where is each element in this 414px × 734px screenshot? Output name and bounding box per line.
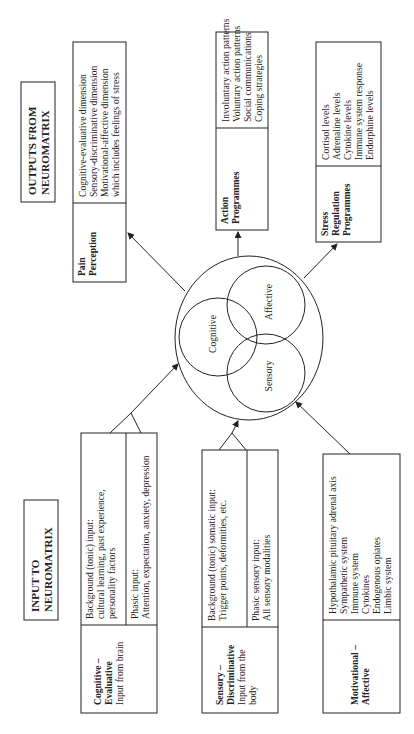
motivational-affective-box: Motivational – Affective Hypothalamic pi… bbox=[323, 454, 400, 713]
action-item: Social communications bbox=[242, 32, 253, 122]
affective-label: Affective bbox=[263, 284, 274, 320]
pain-item: Motivational-affective dimension bbox=[99, 68, 110, 197]
cognitive-connector bbox=[110, 413, 141, 433]
motivational-item: Limbic system bbox=[382, 557, 393, 614]
inputs-title: NEUROMATRIX bbox=[42, 527, 54, 612]
pain-perception-box: Pain Perception Cognitive-evaluative dim… bbox=[73, 42, 126, 282]
cognitive-evaluative-box: Cognitive – Evaluative Input from brain … bbox=[81, 433, 157, 713]
action-label: Programmes bbox=[230, 171, 241, 224]
pain-item: Sensory-discriminative dimension bbox=[88, 65, 99, 197]
motivational-item: Cytokines bbox=[360, 575, 371, 614]
pain-label: Pain bbox=[76, 257, 87, 276]
action-item: Involuntary action patterns bbox=[220, 18, 231, 122]
sensory-label: Sensory bbox=[263, 360, 274, 391]
arrow-from-cognitive bbox=[131, 364, 178, 413]
neuromatrix-diagram: OUTPUTS FROM NEUROMATRIX Pain Perception… bbox=[0, 0, 414, 734]
arrow-from-sensory bbox=[232, 421, 238, 433]
arrow-to-pain bbox=[128, 233, 185, 291]
motivational-input-label: Affective bbox=[360, 668, 371, 705]
stress-item: Adrenaline levels bbox=[331, 92, 342, 160]
outputs-title: NEUROMATRIX bbox=[39, 110, 51, 195]
sensory-input-label: Sensory – bbox=[214, 665, 225, 705]
sensory-phasic: All sensory modalities bbox=[261, 534, 272, 621]
pain-item: which includes feelings of stress bbox=[110, 72, 121, 197]
motivational-input-label: Motivational – bbox=[349, 645, 360, 705]
stress-label: Programmes bbox=[341, 183, 352, 236]
stress-label: Regulation bbox=[330, 191, 341, 236]
sensory-input-sub: Input from the bbox=[236, 650, 247, 705]
cognitive-phasic: Attention, expectation, anxiety, depress… bbox=[140, 455, 151, 619]
stress-regulation-box: Stress Regulation Programmes Cortisol le… bbox=[316, 42, 381, 242]
arrow-to-stress bbox=[304, 244, 337, 278]
motivational-item: Sympathetic system bbox=[338, 536, 349, 614]
motivational-item: Hypothalamic pituitary adrenal axis bbox=[327, 476, 338, 614]
action-item: Coping strategies bbox=[253, 55, 264, 122]
sensory-input-label: Discriminative bbox=[225, 644, 236, 705]
cognitive-input-label: Cognitive – bbox=[92, 658, 103, 705]
sensory-background: Trigger points, deformities, etc. bbox=[217, 500, 228, 621]
cognitive-input-sub: Input from brain bbox=[114, 641, 125, 705]
arrow-from-motivational bbox=[296, 402, 350, 454]
pain-label: Perception bbox=[87, 231, 98, 276]
motivational-item: Endogenous opiates bbox=[371, 537, 382, 614]
cognitive-label: Cognitive bbox=[207, 315, 218, 353]
stress-item: Cytokine levels bbox=[342, 100, 353, 160]
outputs-title: OUTPUTS FROM bbox=[26, 106, 38, 195]
action-label: Action bbox=[219, 196, 230, 224]
cognitive-background: personality factors bbox=[106, 548, 117, 619]
inputs-title: INPUT TO bbox=[29, 559, 41, 612]
pain-item: Cognitive-evaluative dimension bbox=[77, 74, 88, 197]
inputs-title-box: INPUT TO NEUROMATRIX bbox=[24, 500, 58, 620]
stress-label: Stress bbox=[319, 211, 330, 236]
action-programmes-box: Action Programmes Involuntary action pat… bbox=[216, 18, 268, 230]
stress-item: Cortisol levels bbox=[320, 104, 331, 160]
stress-item: Endorphine levels bbox=[364, 90, 375, 160]
cognitive-phasic: Phasic input: bbox=[129, 569, 140, 619]
sensory-input-sub: body bbox=[247, 686, 258, 705]
stress-item: Immune system response bbox=[353, 63, 364, 160]
neuromatrix-circle: Cognitive Affective Sensory bbox=[175, 256, 323, 420]
cognitive-background: cultural learning, past experience, bbox=[95, 489, 106, 619]
sensory-phasic: Phasic sensory input: bbox=[250, 539, 261, 621]
cognitive-input-label: Evaluative bbox=[103, 661, 114, 705]
sensory-discriminative-box: Sensory – Discriminative Input from the … bbox=[202, 450, 278, 713]
motivational-item: Immune system bbox=[349, 552, 360, 614]
cognitive-circle bbox=[179, 298, 257, 376]
outputs-title-box: OUTPUTS FROM NEUROMATRIX bbox=[21, 82, 55, 202]
sensory-connector bbox=[219, 433, 246, 450]
action-item: Voluntary action patterns bbox=[231, 25, 242, 122]
